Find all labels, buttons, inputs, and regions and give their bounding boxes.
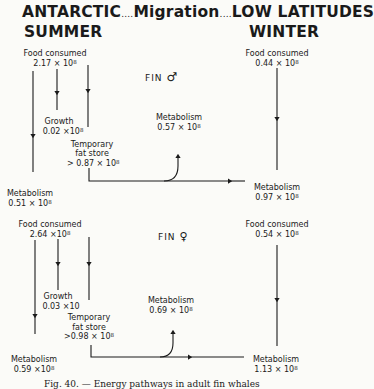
female-summer-food-label: Food consumed: [17, 221, 83, 229]
male-fin-label: FIN ♂: [145, 71, 178, 83]
male-summer-metab-value: 0.51 × 108: [0, 200, 60, 208]
female-migration-metab-value: 0.69 × 108: [142, 307, 200, 315]
female-growth-label: Growth: [33, 293, 83, 301]
female-migration-metab-label: Metabolism: [142, 297, 200, 305]
male-fat-value: > 0.87 × 108: [67, 160, 117, 168]
male-winter-metab-value: 0.97 × 108: [247, 194, 307, 202]
male-fat-label-1: Temporary: [67, 141, 117, 149]
female-winter-metab-value: 1.13 × 108: [246, 366, 306, 374]
female-fat-label-1: Temporary: [64, 314, 114, 322]
female-summer-metab-value: 0.59 ×108: [4, 366, 64, 374]
male-summer-food-label: Food consumed: [22, 50, 88, 58]
male-winter-food-value: 0.44 × 108: [244, 60, 310, 68]
female-fat-label-2: fat store: [64, 324, 114, 332]
female-fat-value: >0.98 × 108: [64, 333, 114, 341]
male-summer-metab-label: Metabolism: [0, 190, 60, 198]
male-winter-metab-label: Metabolism: [247, 184, 307, 192]
female-symbol-icon: ♀: [179, 230, 188, 243]
female-winter-food-value: 0.54 × 108: [244, 231, 310, 239]
male-fat-label-2: fat store: [67, 150, 117, 158]
female-fin-label: FIN ♀: [158, 231, 189, 242]
male-summer-food-value: 2.17 × 108: [22, 60, 88, 68]
female-growth-value: 0.03 ×10: [36, 303, 86, 311]
female-winter-metab-label: Metabolism: [246, 356, 306, 364]
female-summer-food-value: 2.64 ×108: [17, 231, 83, 239]
female-summer-metab-label: Metabolism: [4, 356, 64, 364]
male-growth-label: Growth: [34, 118, 84, 126]
male-symbol-icon: ♂: [166, 70, 178, 84]
male-migration-metab-value: 0.57 × 108: [150, 124, 208, 132]
figure-caption: Fig. 40. — Energy pathways in adult fin …: [44, 380, 260, 389]
female-winter-food-label: Food consumed: [244, 221, 310, 229]
male-growth-value: 0.02 ×108: [38, 128, 88, 136]
male-winter-food-label: Food consumed: [244, 50, 310, 58]
male-migration-metab-label: Metabolism: [150, 114, 208, 122]
